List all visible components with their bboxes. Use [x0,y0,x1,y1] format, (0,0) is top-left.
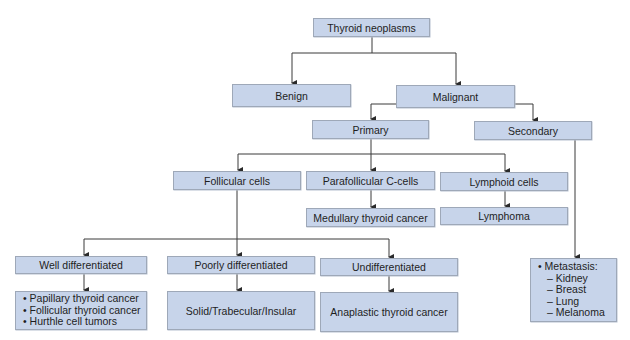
node-label: Benign [275,90,308,102]
node-label: Poorly differentiated [194,259,287,271]
node-follicular-cells: Follicular cells [173,171,301,190]
node-label: Thyroid neoplasms [327,22,416,34]
node-label: Lymphoid cells [469,176,538,188]
node-thyroid-neoplasms: Thyroid neoplasms [313,18,430,37]
metastasis-sublist-wrapper: – Kidney – Breast – Lung – Melanoma [538,273,605,319]
node-well-differentiated-types: • Papillary thyroid cancer • Follicular … [15,291,147,330]
node-label: Malignant [433,91,479,103]
node-poorly-differentiated: Poorly differentiated [167,256,315,274]
node-lymphoma: Lymphoma [440,207,568,225]
node-label: Solid/Trabecular/Insular [186,305,297,317]
list-item: – Melanoma [547,307,605,319]
metastasis-list: • Metastasis: – Kidney – Breast – Lung –… [538,261,605,319]
node-label: Primary [352,124,388,136]
node-label: Secondary [508,125,558,137]
node-medullary-thyroid-cancer: Medullary thyroid cancer [306,208,435,227]
node-label: Anaplastic thyroid cancer [330,306,447,318]
node-label: Well differentiated [39,259,123,271]
node-primary: Primary [312,120,429,139]
node-benign: Benign [232,84,351,107]
node-undifferentiated: Undifferentiated [320,258,458,276]
node-label: Lymphoma [478,210,530,222]
node-label: Follicular cells [204,175,270,187]
node-metastasis: • Metastasis: – Kidney – Breast – Lung –… [530,258,617,322]
node-solid-trabecular-insular: Solid/Trabecular/Insular [167,291,315,330]
metastasis-sites: – Kidney – Breast – Lung – Melanoma [538,273,605,319]
node-label: Parafollicular C-cells [323,175,419,187]
node-anaplastic-thyroid-cancer: Anaplastic thyroid cancer [320,292,458,332]
node-label: Medullary thyroid cancer [313,212,427,224]
node-secondary: Secondary [474,121,592,140]
node-well-differentiated: Well differentiated [15,256,147,274]
node-parafollicular-c-cells: Parafollicular C-cells [306,171,435,190]
list-item: • Hurthle cell tumors [23,316,140,328]
node-lymphoid-cells: Lymphoid cells [440,172,568,191]
node-label: Undifferentiated [352,261,426,273]
well-differentiated-list: • Papillary thyroid cancer • Follicular … [23,293,140,328]
node-malignant: Malignant [396,85,515,108]
